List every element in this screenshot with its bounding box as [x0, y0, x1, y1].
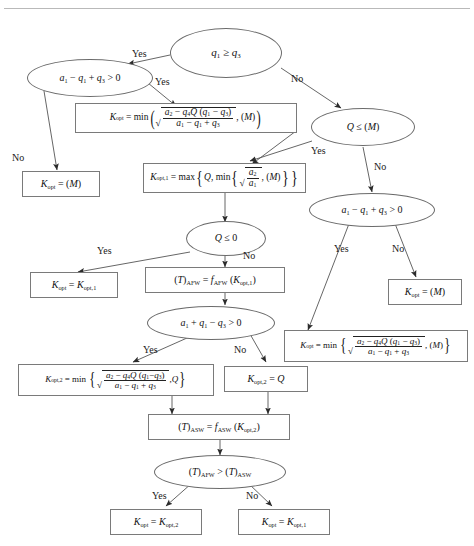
- terminal-kopt-eq-kopt1-mid-text: Kopt = Kopt,1: [52, 280, 96, 291]
- process-kopt2-min-text: Kopt,2 = min {√a2 − q4Q (q1−q3)a1 − q1 +…: [45, 370, 187, 390]
- terminal-kopt-eq-kopt1-bottom: Kopt = Kopt,1: [238, 509, 330, 535]
- edge-d2-no: [44, 91, 57, 170]
- decision-a1-minus-q1-plus-q3: a1 − q1 + q3 > 0: [27, 59, 153, 97]
- process-tafw: (T)AFW = fAFW (Kopt,1): [145, 267, 285, 293]
- edge-label-d3-no: No: [374, 161, 386, 172]
- edge-label-d2-no: No: [12, 152, 24, 163]
- decision-a1-minus-q1-plus-q3-right: a1 − q1 + q3 > 0: [309, 193, 435, 227]
- terminal-kopt-eq-m-right: Kopt = (M): [388, 279, 462, 305]
- decision-q1-ge-q3: q1 ≥ q3: [170, 28, 282, 78]
- decision-q1-ge-q3-text: q1 ≥ q3: [211, 47, 240, 59]
- process-kopt-min-sqrt-text: Kopt = min(√a2 − q4Q (q1 − q3)a1 − q1 + …: [110, 107, 262, 128]
- edge-d3-no: [363, 147, 372, 192]
- decision-a1-minus-q1-plus-q3-text: a1 − q1 + q3 > 0: [59, 73, 120, 84]
- decision-q-le-m-text: Q ≤ (M): [347, 122, 380, 133]
- edge-label-d6-yes: Yes: [143, 344, 158, 355]
- terminal-kopt-eq-kopt2-text: Kopt = Kopt,2: [134, 517, 178, 528]
- edge-label-d5-yes: Yes: [97, 245, 112, 256]
- edge-label-d5-no: No: [243, 250, 255, 261]
- terminal-kopt-eq-kopt1-mid: Kopt = Kopt,1: [30, 272, 118, 298]
- edge-d1-no: [281, 68, 341, 108]
- edge-label-d2-yes: Yes: [155, 76, 170, 87]
- decision-a1-minus-q1-plus-q3-right-text: a1 − q1 + q3 > 0: [341, 205, 402, 216]
- edge-d6-no: [250, 334, 266, 362]
- process-kopt-min-sqrt: Kopt = min(√a2 − q4Q (q1 − q3)a1 − q1 + …: [75, 103, 297, 133]
- flowchart-figure: q1 ≥ q3 a1 − q1 + q3 > 0 Kopt = min(√a2 …: [0, 0, 474, 546]
- terminal-kopt-eq-m-left-text: Kopt = (M): [41, 179, 81, 190]
- edge-label-d7-yes: Yes: [152, 490, 167, 501]
- edge-label-d7-no: No: [246, 490, 258, 501]
- process-kopt-min-sqrt-right-text: Kopt = min {√a2 − q4Q (q1 − q3)a1 − q1 +…: [300, 336, 451, 356]
- terminal-kopt-eq-m-right-text: Kopt = (M): [405, 287, 445, 298]
- edge-label-d1-yes: Yes: [132, 48, 147, 59]
- edge-label-d6-no: No: [234, 344, 246, 355]
- terminal-kopt-eq-kopt1-bottom-text: Kopt = Kopt,1: [262, 517, 306, 528]
- edge-label-d4-no: No: [392, 243, 404, 254]
- decision-a1-plus-q1-minus-q3-text: a1 + q1 − q3 > 0: [180, 318, 241, 329]
- decision-tafw-gt-tasw-text: (T)AFW > (T)ASW: [189, 467, 252, 478]
- edge-d4-yes: [308, 216, 352, 330]
- process-kopt-min-sqrt-right: Kopt = min {√a2 − q4Q (q1 − q3)a1 − q1 +…: [284, 330, 468, 362]
- terminal-kopt-eq-kopt2: Kopt = Kopt,2: [110, 509, 202, 535]
- edge-label-d3-yes: Yes: [311, 145, 326, 156]
- process-kopt1-max-text: Kopt,1 = max{Q, min{√a2a1, (M)}}: [150, 167, 299, 188]
- decision-tafw-gt-tasw: (T)AFW > (T)ASW: [154, 455, 286, 489]
- process-kopt2-eq-q: Kopt,2 = Q: [224, 366, 308, 392]
- process-kopt1-max: Kopt,1 = max{Q, min{√a2a1, (M)}}: [143, 163, 306, 193]
- process-tasw-text: (T)ASW = fASW (Kopt,2): [178, 422, 260, 433]
- edge-label-d1-no: No: [291, 73, 303, 84]
- terminal-kopt-eq-m-left: Kopt = (M): [22, 171, 100, 197]
- process-kopt2-eq-q-text: Kopt,2 = Q: [247, 374, 284, 385]
- edge-label-d4-yes: Yes: [334, 243, 349, 254]
- process-tafw-text: (T)AFW = fAFW (Kopt,1): [174, 275, 256, 286]
- decision-q-le-m: Q ≤ (M): [311, 108, 415, 146]
- process-tasw: (T)ASW = fASW (Kopt,2): [148, 414, 290, 440]
- edge-p1-p2: [252, 131, 296, 164]
- process-kopt2-min: Kopt,2 = min {√a2 − q4Q (q1−q3)a1 − q1 +…: [18, 364, 214, 396]
- decision-q-le-0-text: Q ≤ 0: [215, 233, 238, 244]
- decision-a1-plus-q1-minus-q3: a1 + q1 − q3 > 0: [147, 306, 275, 340]
